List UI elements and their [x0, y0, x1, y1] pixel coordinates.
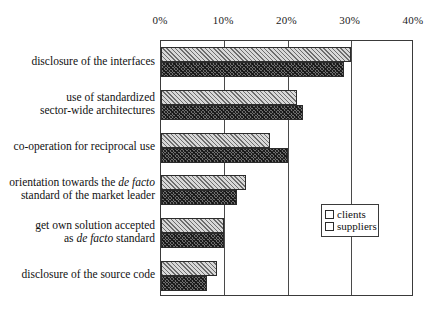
- bar-suppliers-5: [161, 276, 207, 291]
- category-label-2: co-operation for reciprocal use: [14, 140, 155, 154]
- legend-entry-clients: clients: [325, 209, 374, 220]
- light-hatch-swatch: [325, 210, 334, 219]
- gridline-10: [224, 41, 225, 295]
- bar-suppliers-2: [161, 148, 288, 163]
- bar-clients-1: [161, 90, 297, 105]
- category-label-5: disclosure of the source code: [22, 268, 155, 282]
- gridline-30: [351, 41, 352, 295]
- legend-label-suppliers: suppliers: [337, 221, 377, 232]
- legend-entry-suppliers: suppliers: [325, 221, 374, 232]
- bar-clients-2: [161, 133, 270, 148]
- x-tick-10: 10%: [213, 14, 234, 26]
- legend: clients suppliers: [321, 204, 379, 237]
- bar-clients-3: [161, 175, 246, 190]
- bar-clients-5: [161, 261, 217, 276]
- bar-clients-0: [161, 47, 351, 62]
- bar-chart: 0% 10% 20% 30% 40% disclosure of the int…: [0, 0, 440, 315]
- x-tick-40: 40%: [403, 14, 424, 26]
- bar-suppliers-0: [161, 62, 344, 77]
- category-label-1: use of standardizedsector-wide architect…: [40, 91, 155, 118]
- x-tick-0: 0%: [152, 14, 167, 26]
- category-label-3: orientation towards the de factostandard…: [9, 176, 155, 203]
- category-label-4: get own solution acceptedas de facto sta…: [35, 219, 155, 246]
- plot-area: clients suppliers: [160, 40, 413, 296]
- x-tick-20: 20%: [276, 14, 297, 26]
- x-tick-30: 30%: [339, 14, 360, 26]
- category-label-0: disclosure of the interfaces: [31, 55, 155, 69]
- bar-clients-4: [161, 218, 224, 233]
- dark-hatch-swatch: [325, 222, 334, 231]
- bar-suppliers-4: [161, 233, 224, 248]
- legend-label-clients: clients: [337, 209, 366, 220]
- bar-suppliers-1: [161, 105, 303, 120]
- bar-suppliers-3: [161, 190, 237, 205]
- gridline-20: [288, 41, 289, 295]
